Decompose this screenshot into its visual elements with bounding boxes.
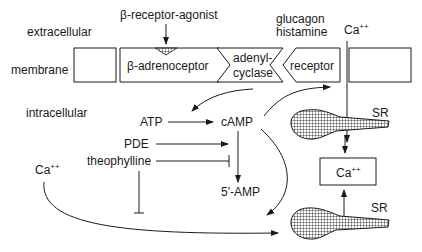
receptor-label: receptor	[290, 59, 334, 73]
intracellular-label: intracellular	[26, 106, 87, 120]
ca-left-label: Ca++	[35, 162, 60, 177]
adenylcyclase-label-line1: adenyl-	[233, 51, 272, 65]
atp-label: ATP	[140, 115, 162, 129]
five-amp-label: 5'-AMP	[221, 185, 260, 199]
camp-to-bottom-sr-arrow-icon	[261, 129, 287, 215]
beta-agonist-label: β-receptor-agonist	[120, 8, 218, 22]
glucagon-label: glucagon	[276, 12, 325, 26]
adenylcyclase-label-line2: cyclase	[233, 66, 273, 80]
beta-adrenoceptor-label: β-adrenoceptor	[127, 59, 209, 73]
diagram-canvas: extracellular membrane intracellular β-r…	[0, 0, 422, 252]
sr-bottom-label: SR	[371, 201, 388, 215]
ca-extracellular-label: Ca++	[344, 22, 369, 37]
cyclase-to-atp-arrow-icon	[192, 89, 253, 111]
membrane-label: membrane	[11, 63, 69, 77]
histamine-label: histamine	[276, 25, 328, 39]
membrane-block-right	[349, 48, 411, 82]
camp-label: cAMP	[221, 115, 253, 129]
theophylline-label: theophylline	[87, 154, 151, 168]
membrane-block-left	[74, 48, 116, 82]
pde-label: PDE	[124, 137, 149, 151]
sr-top-label: SR	[372, 106, 389, 120]
extracellular-label: extracellular	[27, 25, 92, 39]
